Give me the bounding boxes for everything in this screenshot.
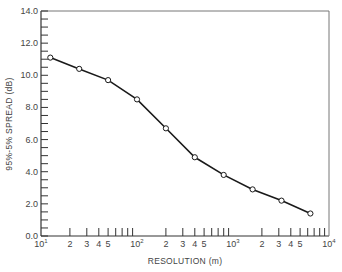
x-tick-label: 102 (130, 238, 144, 249)
x-tick-label: 103 (226, 238, 240, 249)
data-markers (48, 55, 313, 216)
line-chart: 0.02.04.06.08.010.012.014.0 101234510223… (0, 0, 342, 272)
x-tick-label: 3 (180, 239, 185, 249)
y-tick-label: 12.0 (20, 38, 38, 48)
x-tick-label: 2 (163, 239, 168, 249)
x-tick-label: 4 (96, 239, 101, 249)
x-tick-label: 3 (276, 239, 281, 249)
x-tick-label: 3 (84, 239, 89, 249)
data-point (192, 155, 197, 160)
data-point (163, 126, 168, 131)
y-tick-label: 14.0 (20, 6, 38, 16)
x-tick-label: 4 (288, 239, 293, 249)
data-point (77, 66, 82, 71)
y-tick-label: 8.0 (25, 102, 38, 112)
x-tick-label: 104 (322, 238, 336, 249)
x-tick-label: 4 (192, 239, 197, 249)
data-point (106, 78, 111, 83)
data-point (279, 198, 284, 203)
data-point (134, 97, 139, 102)
x-tick-label: 5 (202, 239, 207, 249)
data-point (308, 211, 313, 216)
x-tick-label: 101 (34, 238, 48, 249)
data-point (221, 172, 226, 177)
y-tick-label: 10.0 (20, 70, 38, 80)
y-tick-label: 2.0 (25, 199, 38, 209)
y-axis: 0.02.04.06.08.010.012.014.0 (20, 6, 48, 241)
data-line (50, 58, 310, 214)
x-axis: 101234510223451032345104 (34, 228, 336, 249)
y-tick-label: 4.0 (25, 167, 38, 177)
x-tick-label: 2 (67, 239, 72, 249)
x-axis-label: RESOLUTION (m) (148, 256, 223, 266)
x-tick-label: 5 (106, 239, 111, 249)
data-point (48, 55, 53, 60)
x-tick-label: 2 (259, 239, 264, 249)
x-tick-label: 5 (298, 239, 303, 249)
data-point (250, 187, 255, 192)
y-tick-label: 6.0 (25, 135, 38, 145)
y-axis-label: 95%-5% SPREAD (dB) (4, 77, 14, 170)
